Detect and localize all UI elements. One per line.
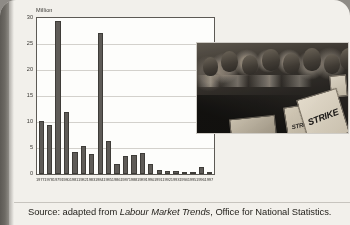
bar [157, 170, 162, 174]
bar [148, 164, 153, 174]
bar [190, 172, 195, 174]
x-axis-tick-label: 1995 [188, 177, 197, 182]
x-axis-tick-label: 1987 [120, 177, 129, 182]
caption-prefix: Source: adapted from [28, 206, 120, 217]
x-axis-tick-label: 1993 [171, 177, 180, 182]
x-axis-tick-label: 1994 [179, 177, 188, 182]
x-axis-tick-label: 1979 [53, 177, 62, 182]
y-axis-tick-label: 0 [30, 170, 33, 176]
photo-grain-texture [196, 42, 349, 134]
y-axis-tick-label: 25 [27, 40, 33, 46]
x-axis-tick-label: 1982 [78, 177, 87, 182]
bar [47, 125, 52, 174]
bar [106, 141, 111, 174]
y-axis-tick-label: 10 [27, 118, 33, 124]
bar [199, 167, 204, 174]
x-axis-tick-labels: 1977197819791980198119821983198419851986… [36, 177, 215, 187]
x-axis-tick-label: 1985 [103, 177, 112, 182]
bar [131, 155, 136, 174]
bar [89, 154, 94, 174]
source-caption: Source: adapted from Labour Market Trend… [28, 206, 346, 217]
bar [55, 21, 60, 174]
y-axis-title: Million [36, 7, 53, 13]
bar [140, 153, 145, 174]
x-axis-tick-label: 1997 [205, 177, 214, 182]
x-axis-tick-label: 1981 [70, 177, 79, 182]
x-axis-tick-label: 1991 [154, 177, 163, 182]
x-axis-tick-label: 1988 [129, 177, 138, 182]
x-axis-tick-label: 1980 [61, 177, 70, 182]
bar [98, 33, 103, 174]
x-axis-tick-label: 1992 [162, 177, 171, 182]
caption-publication-title: Labour Market Trends [120, 206, 211, 217]
bar [165, 171, 170, 174]
bar-chart: Million 051015202530 1977197819791980198… [14, 4, 350, 200]
striking-workers-photograph: STRIKE STRIKE [196, 42, 349, 134]
x-axis-tick-label: 1986 [112, 177, 121, 182]
x-axis-tick-label: 1990 [146, 177, 155, 182]
bar [64, 112, 69, 174]
bar [81, 146, 86, 174]
x-axis-tick-label: 1984 [95, 177, 104, 182]
bar-series [37, 18, 214, 174]
y-axis-tick-label: 20 [27, 66, 33, 72]
x-axis-tick-label: 1977 [36, 177, 45, 182]
y-axis-tick-label: 30 [27, 14, 33, 20]
caption-divider [14, 202, 350, 203]
x-axis-tick-label: 1996 [196, 177, 205, 182]
bar [39, 121, 44, 174]
bar [207, 172, 212, 174]
bar [173, 171, 178, 174]
bar [123, 156, 128, 174]
page-binding-gutter [0, 0, 9, 225]
x-axis-tick-label: 1978 [44, 177, 53, 182]
caption-suffix: , Office for National Statistics. [210, 206, 331, 217]
x-axis-tick-label: 1983 [87, 177, 96, 182]
bar [182, 172, 187, 174]
x-axis-tick-label: 1989 [137, 177, 146, 182]
page: Million 051015202530 1977197819791980198… [0, 0, 350, 225]
y-axis-tick-label: 15 [27, 92, 33, 98]
y-axis-tick-label: 5 [30, 144, 33, 150]
plot-area [36, 17, 215, 175]
bar [114, 164, 119, 174]
bar [72, 152, 77, 174]
y-axis-tick-labels: 051015202530 [14, 17, 33, 175]
